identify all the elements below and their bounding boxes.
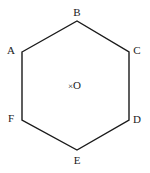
vertex-label-a: A — [4, 45, 18, 56]
vertex-label-b: B — [70, 7, 84, 18]
center-point-marker: ×O — [68, 80, 81, 92]
vertex-label-e: E — [70, 155, 84, 166]
vertex-label-d: D — [130, 114, 144, 125]
vertex-label-f: F — [4, 113, 18, 124]
hexagon-figure: A B C D E F ×O — [0, 0, 150, 173]
center-point-label: O — [73, 79, 81, 91]
vertex-label-c: C — [130, 45, 144, 56]
